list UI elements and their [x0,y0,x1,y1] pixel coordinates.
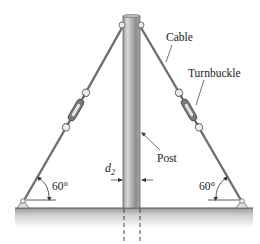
left-turnbuckle [61,88,91,132]
turnbuckle-label: Turnbuckle [188,67,241,79]
angle-label-right: 60° [199,180,216,192]
diameter-label: d2 [105,161,115,177]
cable-callout: Cable [166,31,193,62]
post-label: Post [157,152,178,164]
ground [15,208,253,228]
left-angle-annotation: 60° [26,177,69,202]
cable-label: Cable [166,31,193,43]
post-cable-diagram: 60° 60° Cable Turnbuckle Post d2 [0,0,260,244]
turnbuckle-callout: Turnbuckle [188,67,241,105]
angle-label-left: 60° [52,180,69,192]
post-callout: Post [141,132,178,164]
